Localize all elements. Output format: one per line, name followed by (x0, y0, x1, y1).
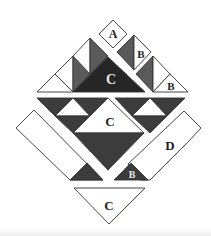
label-b-triangle: B (167, 80, 175, 92)
label-b-strip: B (137, 48, 145, 60)
label-b-bottom: B (129, 169, 136, 180)
label-d: D (165, 138, 174, 153)
page-edge-shadow (0, 228, 211, 236)
label-c-bottom: C (104, 198, 113, 213)
label-a: A (109, 27, 118, 41)
label-c-middle: C (105, 114, 114, 129)
quilt-diagram: A B B C C D B C (0, 0, 211, 236)
label-c-dark: C (106, 72, 116, 87)
